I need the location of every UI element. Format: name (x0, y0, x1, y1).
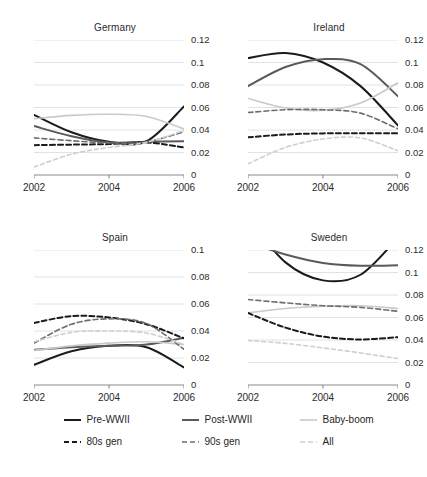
y-axis-tick-label: 0 (191, 170, 196, 180)
y-axis-tick-label: 0.04 (405, 125, 424, 135)
y-axis-tick-label: 0 (405, 170, 410, 180)
y-axis-tick-label: 0.12 (405, 245, 424, 255)
plot-area-spain (34, 250, 184, 391)
plot-area-ireland (248, 40, 398, 181)
chart-svg-spain (34, 250, 184, 391)
series-line (248, 109, 398, 129)
legend-item-baby-boom[interactable]: Baby-boom (300, 414, 374, 425)
legend-line-swatch (182, 437, 199, 447)
x-axis-tick-label: 2002 (14, 393, 54, 403)
chart-panel-ireland: Ireland 00.020.040.060.080.10.1220022004… (222, 22, 427, 197)
x-axis-tick-label: 2006 (164, 183, 204, 193)
chart-panel-sweden: Sweden 00.020.040.060.080.10.12200220042… (222, 232, 427, 407)
y-axis-tick-label: 0.06 (405, 313, 424, 323)
legend-label: 90s gen (205, 436, 241, 447)
chart-panel-germany: Germany 00.020.040.060.080.10.1220022004… (8, 22, 222, 197)
legend-line-swatch (64, 437, 81, 447)
legend-item-all[interactable]: All (300, 436, 334, 447)
legend-item-90s-gen[interactable]: 90s gen (182, 436, 241, 447)
y-axis-tick-label: 0.08 (405, 80, 424, 90)
x-axis-tick-label: 2002 (228, 183, 268, 193)
y-axis-tick-label: 0 (191, 380, 196, 390)
x-axis-tick-label: 2004 (303, 183, 343, 193)
legend-label: Post-WWII (205, 414, 253, 425)
legend-label: Baby-boom (323, 414, 374, 425)
panel-title-ireland: Ireland (222, 22, 427, 33)
y-axis-tick-label: 0.08 (191, 80, 210, 90)
legend-label: Pre-WWII (87, 414, 130, 425)
x-axis-tick-label: 2002 (228, 393, 268, 403)
x-axis-tick-label: 2006 (378, 393, 418, 403)
x-axis-tick-label: 2006 (164, 393, 204, 403)
y-axis-tick-label: 0.06 (191, 103, 210, 113)
y-axis-tick-label: 0.1 (191, 58, 204, 68)
series-line (248, 341, 398, 359)
y-axis-tick-label: 0.02 (405, 148, 424, 158)
series-line (34, 131, 184, 168)
series-line (248, 137, 398, 164)
legend-item-80s-gen[interactable]: 80s gen (64, 436, 123, 447)
chart-svg-ireland (248, 40, 398, 181)
chart-svg-germany (34, 40, 184, 181)
y-axis-tick-label: 0.04 (405, 335, 424, 345)
y-axis-tick-label: 0.1 (405, 58, 418, 68)
series-line (248, 59, 398, 96)
y-axis-tick-label: 0.02 (405, 358, 424, 368)
legend-item-pre-wwii[interactable]: Pre-WWII (64, 414, 130, 425)
panel-title-sweden: Sweden (222, 232, 427, 243)
plot-area-sweden (248, 250, 398, 391)
y-axis-tick-label: 0.06 (405, 103, 424, 113)
chart-legend: Pre-WWIIPost-WWIIBaby-boom80s gen90s gen… (0, 414, 427, 449)
legend-line-swatch (300, 437, 317, 447)
legend-line-swatch (300, 415, 317, 425)
y-axis-tick-label: 0.02 (191, 148, 210, 158)
y-axis-tick-label: 0.08 (191, 272, 210, 282)
y-axis-tick-label: 0.08 (405, 290, 424, 300)
x-axis-tick-label: 2006 (378, 183, 418, 193)
series-line (248, 133, 398, 137)
y-axis-tick-label: 0.12 (405, 35, 424, 45)
legend-row: 80s gen90s genAll (64, 436, 364, 449)
y-axis-tick-label: 0.1 (191, 245, 204, 255)
x-axis-tick-label: 2004 (89, 183, 129, 193)
series-line (248, 250, 398, 266)
legend-row: Pre-WWIIPost-WWIIBaby-boom (64, 414, 364, 427)
series-line (34, 319, 184, 349)
legend-label: 80s gen (87, 436, 123, 447)
y-axis-tick-label: 0 (405, 380, 410, 390)
x-axis-tick-label: 2004 (303, 393, 343, 403)
legend-line-swatch (64, 415, 81, 425)
panel-title-germany: Germany (8, 22, 222, 33)
series-line (248, 83, 398, 111)
y-axis-tick-label: 0.12 (191, 35, 210, 45)
chart-panel-spain: Spain 00.020.040.060.080.1200220042006 (8, 232, 222, 407)
plot-area-germany (34, 40, 184, 181)
small-multiples-figure: Germany 00.020.040.060.080.10.1220022004… (0, 0, 427, 477)
y-axis-tick-label: 0.02 (191, 353, 210, 363)
x-axis-tick-label: 2004 (89, 393, 129, 403)
y-axis-tick-label: 0.06 (191, 299, 210, 309)
y-axis-tick-label: 0.04 (191, 125, 210, 135)
legend-label: All (323, 436, 334, 447)
legend-line-swatch (182, 415, 199, 425)
panel-title-spain: Spain (8, 232, 222, 243)
series-line (248, 53, 398, 126)
y-axis-tick-label: 0.04 (191, 326, 210, 336)
chart-svg-sweden (248, 250, 398, 391)
x-axis-tick-label: 2002 (14, 183, 54, 193)
y-axis-tick-label: 0.1 (405, 268, 418, 278)
legend-item-post-wwii[interactable]: Post-WWII (182, 414, 253, 425)
series-line (248, 313, 398, 339)
